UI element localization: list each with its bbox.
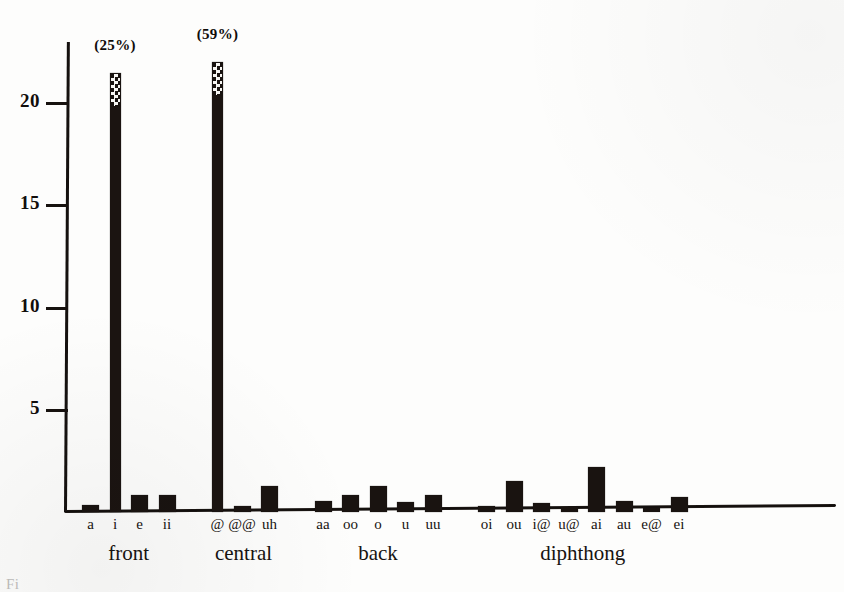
bar-chart-figure: 5101520 (25%)(59%) aieii@@@uhaaooouuuoio… — [0, 0, 844, 592]
category-label: @@ — [228, 516, 256, 533]
bar-hatched-cap — [212, 62, 223, 96]
group-label-front: front — [108, 541, 149, 566]
group-label-central: central — [215, 541, 272, 566]
bar-ei — [671, 497, 688, 512]
category-label: uu — [426, 516, 441, 533]
bar-ou — [506, 481, 523, 512]
category-label: ai — [591, 516, 602, 533]
bar-au — [616, 501, 633, 512]
category-label: ou — [507, 516, 522, 533]
y-axis-tick-label: 5 — [0, 397, 40, 419]
group-label-back: back — [358, 541, 398, 566]
category-label: ei — [674, 516, 685, 533]
bar-at — [212, 62, 223, 512]
category-label: i — [113, 516, 117, 533]
figure-caption: Fi — [6, 576, 19, 592]
bar-aa — [315, 501, 332, 512]
bar-percent-label: (25%) — [94, 37, 136, 54]
bar-hatched-cap — [110, 73, 121, 107]
bar-ii — [159, 495, 176, 512]
bar-a — [82, 505, 99, 512]
y-axis-tick-label: 10 — [0, 295, 40, 317]
bar-uu — [425, 495, 442, 512]
bar-e — [131, 495, 148, 512]
bar-oi — [478, 506, 495, 512]
category-label: i@ — [533, 516, 551, 533]
category-label: oi — [481, 516, 493, 533]
category-label: oo — [343, 516, 358, 533]
plot-area: (25%)(59%) — [64, 42, 836, 512]
bar-iat — [533, 503, 550, 512]
bar-atat — [234, 506, 251, 512]
category-label: u — [402, 516, 410, 533]
bar-uat — [561, 507, 578, 512]
bar-eat — [643, 508, 660, 512]
category-label: e@ — [641, 516, 661, 533]
y-axis-tick-label: 20 — [0, 90, 40, 112]
group-label-diphthong: diphthong — [540, 541, 625, 566]
category-label: e — [136, 516, 143, 533]
bar-o — [370, 486, 387, 512]
category-label: a — [87, 516, 94, 533]
bar-ai — [588, 467, 605, 512]
category-label: o — [374, 516, 382, 533]
category-label: ii — [163, 516, 171, 533]
y-axis-tick-label: 15 — [0, 192, 40, 214]
category-label: aa — [316, 516, 329, 533]
category-label: uh — [262, 516, 277, 533]
category-label: @ — [211, 516, 225, 533]
category-label: au — [617, 516, 631, 533]
bar-oo — [342, 495, 359, 512]
bar-uh — [261, 486, 278, 512]
bar-u — [397, 502, 414, 512]
bar-i — [110, 73, 121, 512]
category-label: u@ — [558, 516, 579, 533]
bar-percent-label: (59%) — [197, 26, 239, 43]
